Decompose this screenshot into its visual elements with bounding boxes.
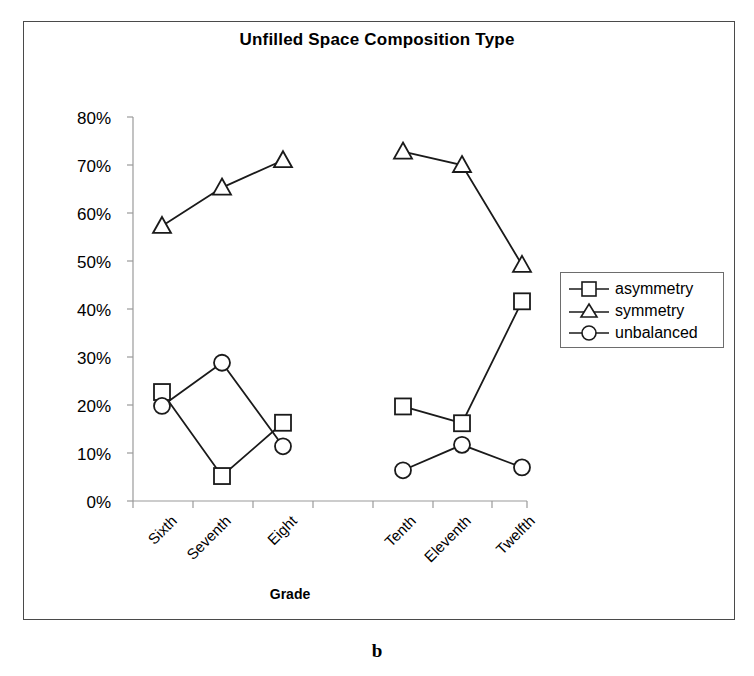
square-marker-icon [567,279,611,299]
legend-entry-symmetry: symmetry [567,300,717,322]
ytick-label-30: 30% [55,349,111,369]
legend-entry-asymmetry: asymmetry [567,278,717,300]
ytick-label-70: 70% [55,157,111,177]
ytick-label-40: 40% [55,301,111,321]
legend-entry-unbalanced: unbalanced [567,322,717,344]
ytick-label-80: 80% [55,109,111,129]
ytick-label-60: 60% [55,205,111,225]
ytick-label-50: 50% [55,253,111,273]
triangle-marker-icon [567,301,611,321]
chart-title: Unfilled Space Composition Type [0,30,754,50]
ytick-label-20: 20% [55,397,111,417]
figure-caption: b [0,640,754,662]
legend-label-asymmetry: asymmetry [611,280,693,298]
xaxis-title: Grade [0,586,580,602]
ytick-label-10: 10% [55,445,111,465]
legend-label-symmetry: symmetry [611,302,684,320]
legend-label-unbalanced: unbalanced [611,324,698,342]
legend: asymmetry symmetry unbalanced [560,272,724,348]
ytick-label-0: 0% [55,493,111,513]
circle-marker-icon [567,323,611,343]
